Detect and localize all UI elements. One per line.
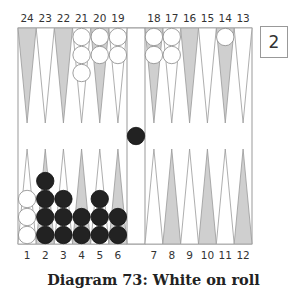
point-label-8: 8 (168, 249, 175, 261)
point-label-24: 24 (20, 12, 34, 24)
white-checker (73, 46, 90, 63)
white-checker (163, 28, 180, 45)
white-checker (73, 64, 90, 81)
white-checker (163, 46, 180, 63)
point-label-22: 22 (57, 12, 70, 24)
point-label-18: 18 (147, 12, 160, 24)
point-label-13: 13 (236, 12, 249, 24)
white-checker (18, 226, 35, 243)
black-checker (73, 226, 90, 243)
black-checker (91, 226, 108, 243)
white-checker (91, 28, 108, 45)
black-checker-on-bar (127, 127, 144, 144)
white-checker (18, 190, 35, 207)
black-checker (55, 208, 72, 225)
white-checker (18, 208, 35, 225)
white-checker (145, 28, 162, 45)
point-label-16: 16 (183, 12, 197, 24)
black-checker (109, 226, 126, 243)
point-label-21: 21 (75, 12, 88, 24)
point-label-1: 1 (24, 249, 31, 261)
point-label-17: 17 (165, 12, 178, 24)
point-label-19: 19 (111, 12, 124, 24)
point-label-9: 9 (186, 249, 193, 261)
point-label-12: 12 (236, 249, 249, 261)
point-label-23: 23 (39, 12, 52, 24)
white-checker (73, 28, 90, 45)
black-checker (37, 190, 54, 207)
black-checker (37, 208, 54, 225)
point-label-7: 7 (151, 249, 158, 261)
black-checker (73, 208, 90, 225)
white-checker (217, 28, 234, 45)
white-checker (145, 46, 162, 63)
black-checker (55, 190, 72, 207)
black-checker (55, 226, 72, 243)
white-checker (109, 46, 126, 63)
doubling-cube: 2 (260, 26, 288, 58)
black-checker (37, 172, 54, 189)
white-checker (109, 28, 126, 45)
diagram-caption: Diagram 73: White on roll (0, 271, 307, 288)
point-label-14: 14 (219, 12, 233, 24)
point-label-4: 4 (78, 249, 85, 261)
point-label-5: 5 (96, 249, 103, 261)
black-checker (37, 226, 54, 243)
point-label-11: 11 (219, 249, 232, 261)
point-label-20: 20 (93, 12, 106, 24)
white-checker (91, 46, 108, 63)
point-label-2: 2 (42, 249, 49, 261)
black-checker (91, 190, 108, 207)
black-checker (109, 208, 126, 225)
point-label-6: 6 (115, 249, 122, 261)
point-label-15: 15 (201, 12, 214, 24)
black-checker (91, 208, 108, 225)
point-label-3: 3 (60, 249, 67, 261)
point-label-10: 10 (201, 249, 214, 261)
